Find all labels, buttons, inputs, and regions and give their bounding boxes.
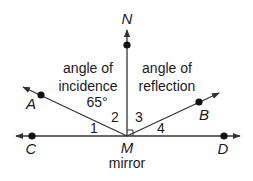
- point-n-dot: [123, 41, 130, 48]
- angle-2-label: 2: [111, 109, 119, 125]
- point-d-dot: [220, 132, 227, 139]
- point-b-dot: [195, 98, 202, 105]
- point-c-dot: [28, 132, 35, 139]
- label-b: B: [199, 106, 209, 123]
- reflection-label-line1: angle of: [142, 60, 192, 76]
- mirror-label: mirror: [109, 155, 146, 171]
- incidence-label-line1: angle of: [63, 60, 113, 76]
- incidence-angle-value: 65°: [86, 94, 107, 110]
- label-c: C: [26, 140, 37, 157]
- label-a: A: [25, 95, 36, 112]
- reflection-diagram: N A B C D M angle of incidence 65° angle…: [0, 0, 253, 181]
- label-m: M: [121, 139, 134, 156]
- angle-4-label: 4: [157, 120, 165, 136]
- label-d: D: [218, 140, 229, 157]
- angle-1-label: 1: [90, 120, 98, 136]
- reflection-label-line2: reflection: [139, 78, 196, 94]
- label-n: N: [122, 10, 133, 27]
- angle-3-label: 3: [135, 109, 143, 125]
- point-a-dot: [37, 91, 44, 98]
- incidence-label-line2: incidence: [58, 78, 117, 94]
